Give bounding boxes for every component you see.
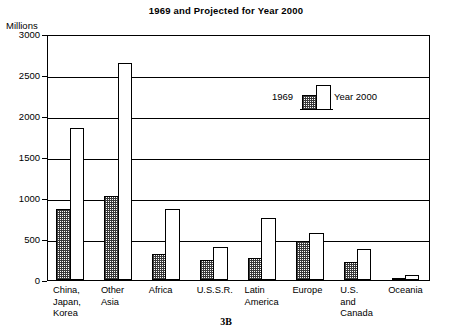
bar-year-2000 (357, 249, 372, 280)
legend-swatch-year-2000 (316, 85, 331, 110)
figure-number-label: 3B (0, 316, 452, 327)
bar-year-2000 (70, 128, 85, 280)
bar-year-2000 (309, 233, 324, 280)
y-tick-label: 2500 (19, 70, 40, 81)
bar-year-2000 (213, 247, 228, 280)
x-category-label: U.S. and Canada (340, 285, 394, 320)
x-category-label: U.S.S.R. (197, 285, 251, 297)
bar-series-layer (48, 36, 429, 280)
y-tick-label: 3000 (19, 29, 40, 40)
x-category-label: China, Japan, Korea (53, 285, 107, 320)
bar-year-2000 (405, 275, 420, 280)
y-tick-mark (42, 35, 47, 36)
y-tick-label: 2000 (19, 111, 40, 122)
x-category-label: Oceania (388, 285, 442, 297)
x-category-label: Other Asia (101, 285, 155, 308)
legend-baseline (300, 109, 333, 110)
legend-label-1969: 1969 (272, 91, 293, 102)
y-tick-mark (42, 281, 47, 282)
legend-label-year-2000: Year 2000 (334, 91, 377, 102)
chart-title: 1969 and Projected for Year 2000 (0, 5, 452, 16)
bar-year-2000 (261, 218, 276, 280)
x-category-label: Africa (149, 285, 203, 297)
plot-area (47, 35, 430, 281)
y-tick-label: 0 (35, 275, 40, 286)
y-tick-mark (42, 158, 47, 159)
y-tick-label: 1500 (19, 152, 40, 163)
chart-figure: 1969 and Projected for Year 2000 Million… (0, 0, 452, 334)
y-tick-mark (42, 76, 47, 77)
bar-year-2000 (118, 63, 133, 280)
x-category-label: Latin America (245, 285, 299, 308)
y-tick-label: 1000 (19, 193, 40, 204)
y-tick-mark (42, 117, 47, 118)
y-tick-mark (42, 199, 47, 200)
bar-year-2000 (165, 209, 180, 280)
x-category-label: Europe (292, 285, 346, 297)
y-tick-label: 500 (24, 234, 40, 245)
y-tick-mark (42, 240, 47, 241)
